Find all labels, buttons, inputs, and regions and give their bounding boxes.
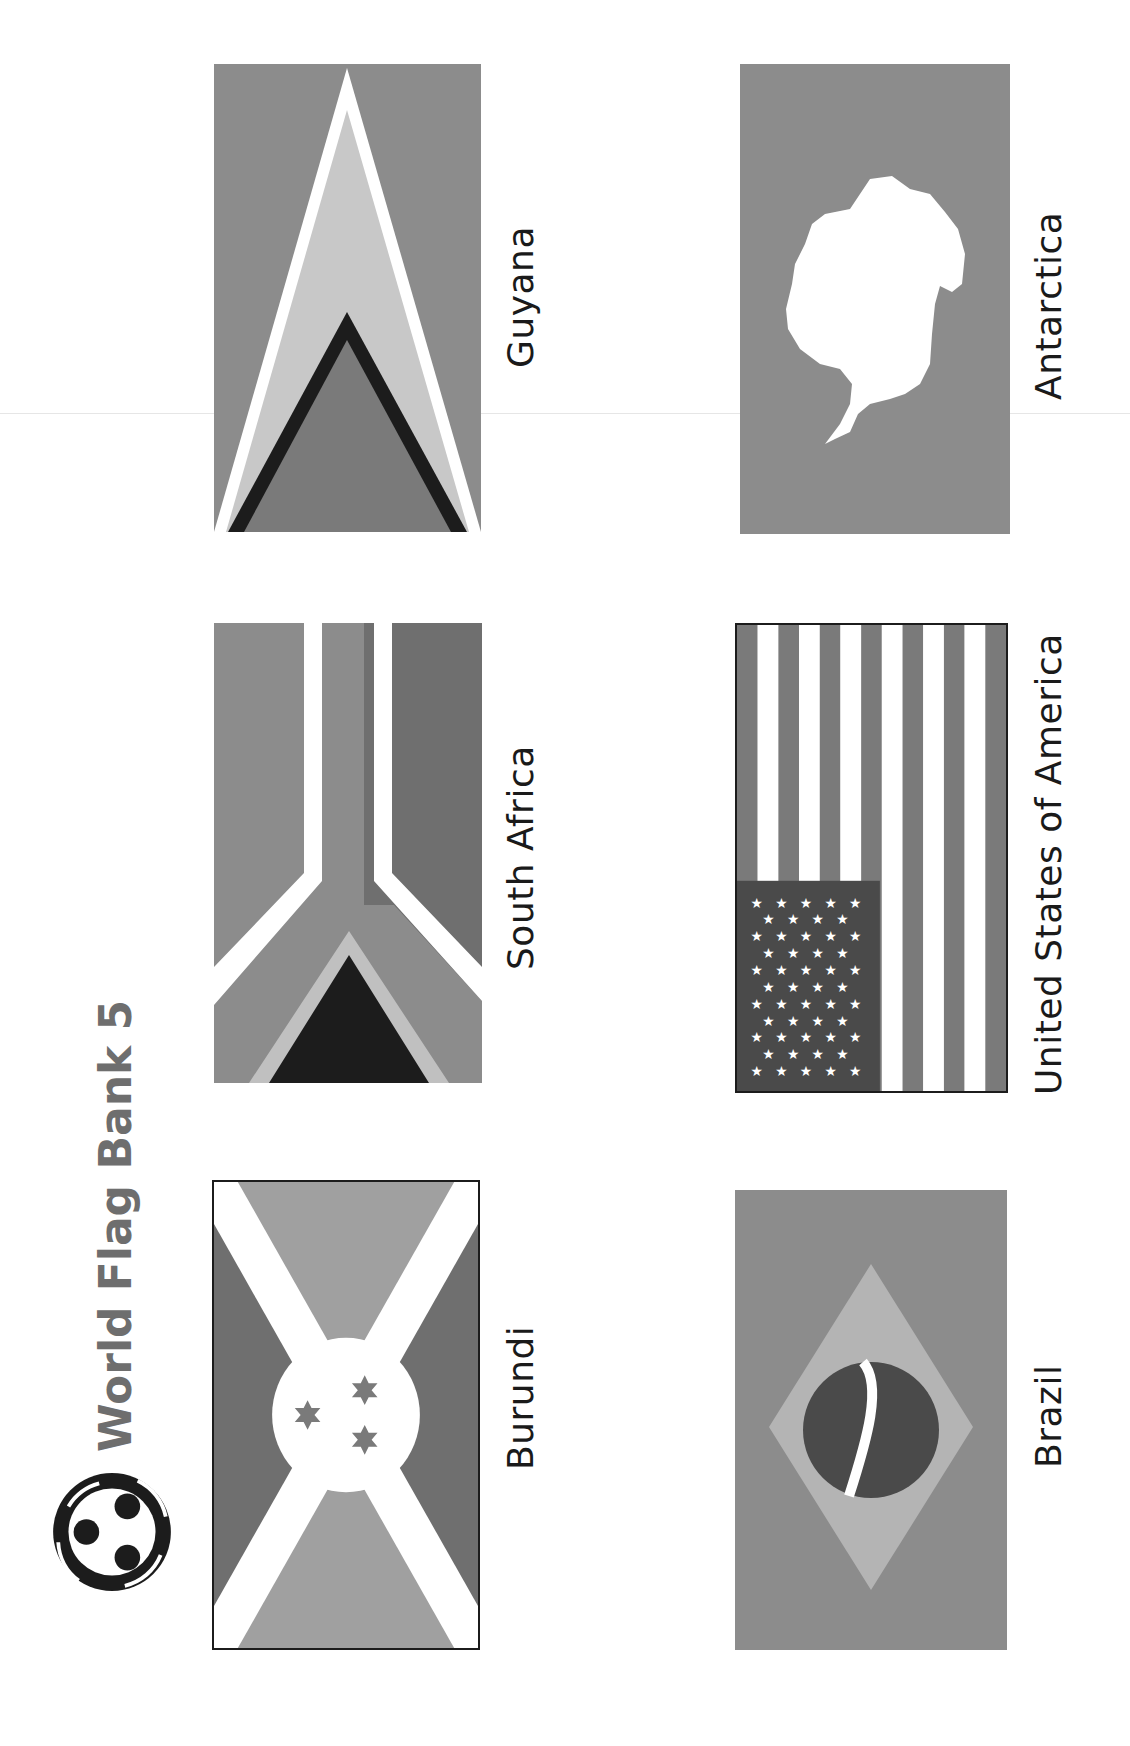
flag-burundi	[212, 1180, 480, 1650]
flag-label-burundi: Burundi	[500, 1326, 541, 1470]
svg-text:★: ★	[824, 1063, 836, 1079]
svg-text:★: ★	[836, 945, 848, 961]
svg-text:★: ★	[849, 895, 861, 911]
svg-text:★: ★	[824, 962, 836, 978]
svg-text:★: ★	[800, 1063, 812, 1079]
svg-text:★: ★	[812, 911, 824, 927]
svg-text:★: ★	[775, 996, 787, 1012]
svg-text:★: ★	[762, 945, 774, 961]
svg-text:★: ★	[824, 996, 836, 1012]
svg-text:★: ★	[836, 911, 848, 927]
svg-text:★: ★	[800, 1029, 812, 1045]
flag-label-south-africa: South Africa	[500, 745, 541, 970]
flag-brazil	[735, 1190, 1007, 1650]
svg-text:★: ★	[762, 911, 774, 927]
flag-label-antarctica: Antarctica	[1028, 212, 1069, 400]
svg-text:★: ★	[849, 1063, 861, 1079]
svg-text:★: ★	[775, 895, 787, 911]
svg-text:★: ★	[800, 996, 812, 1012]
flag-guyana	[214, 64, 481, 532]
flag-antarctica	[740, 64, 1010, 534]
flag-label-guyana: Guyana	[500, 226, 541, 368]
svg-text:★: ★	[812, 1046, 824, 1062]
flag-usa: ★★★★★ ★★★★ ★★★★★ ★★★★ ★★★★★ ★★★★ ★★★★★ ★…	[735, 623, 1008, 1093]
svg-text:★: ★	[824, 895, 836, 911]
svg-text:★: ★	[787, 979, 799, 995]
svg-text:★: ★	[800, 928, 812, 944]
svg-text:★: ★	[775, 928, 787, 944]
svg-text:★: ★	[849, 962, 861, 978]
svg-text:★: ★	[849, 1029, 861, 1045]
svg-text:★: ★	[775, 962, 787, 978]
page-title: World Flag Bank 5	[90, 1000, 141, 1452]
svg-text:★: ★	[751, 928, 763, 944]
people-circle-logo-icon	[48, 1468, 176, 1596]
svg-text:★: ★	[836, 1013, 848, 1029]
svg-text:★: ★	[812, 945, 824, 961]
svg-text:★: ★	[800, 962, 812, 978]
svg-text:★: ★	[800, 895, 812, 911]
svg-text:★: ★	[836, 979, 848, 995]
flag-south-africa	[214, 623, 482, 1083]
svg-text:★: ★	[812, 1013, 824, 1029]
svg-text:★: ★	[751, 1029, 763, 1045]
flag-label-brazil: Brazil	[1028, 1365, 1069, 1468]
svg-text:★: ★	[762, 1046, 774, 1062]
svg-text:★: ★	[762, 979, 774, 995]
svg-text:★: ★	[787, 1013, 799, 1029]
svg-text:★: ★	[751, 962, 763, 978]
svg-text:★: ★	[751, 996, 763, 1012]
svg-text:★: ★	[775, 1029, 787, 1045]
svg-text:★: ★	[775, 1063, 787, 1079]
svg-text:★: ★	[787, 945, 799, 961]
svg-text:★: ★	[787, 1046, 799, 1062]
svg-text:★: ★	[762, 1013, 774, 1029]
svg-text:★: ★	[812, 979, 824, 995]
svg-text:★: ★	[849, 996, 861, 1012]
svg-text:★: ★	[824, 1029, 836, 1045]
svg-text:★: ★	[751, 1063, 763, 1079]
svg-text:★: ★	[824, 928, 836, 944]
svg-text:★: ★	[751, 895, 763, 911]
flag-label-usa: United States of America	[1028, 633, 1069, 1095]
svg-text:★: ★	[787, 911, 799, 927]
svg-text:★: ★	[849, 928, 861, 944]
svg-text:★: ★	[836, 1046, 848, 1062]
